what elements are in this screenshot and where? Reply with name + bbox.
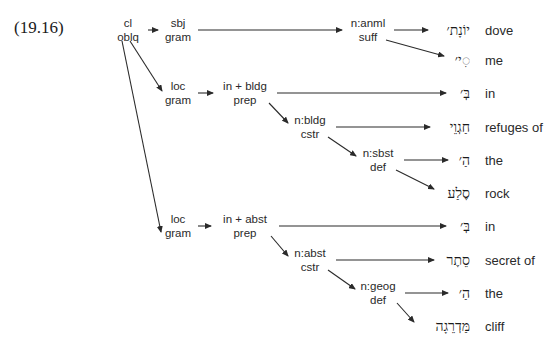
edge-arrow-geog-to-leaf9	[397, 303, 414, 322]
gloss: the	[485, 153, 503, 168]
node-function: suff	[351, 30, 386, 44]
hebrew-word: חַגְוֵי	[450, 119, 470, 136]
gloss: refuges of	[485, 120, 543, 135]
hebrew-word: בְּ׳	[460, 218, 470, 235]
hebrew-word: סֵתֶר	[447, 252, 470, 269]
node-root: cloblq	[117, 16, 139, 44]
node-function: gram	[165, 226, 191, 240]
hebrew-word: ◌ִי׳	[455, 52, 470, 69]
gloss: secret of	[485, 253, 535, 268]
gloss: cliff	[485, 319, 504, 334]
gloss: rock	[485, 186, 510, 201]
edge-arrow-abst-to-geog	[328, 270, 355, 289]
node-category: n:bldg	[294, 113, 325, 127]
node-category: in + bldg	[223, 79, 267, 93]
edge-arrow-sbst-to-leaf5	[396, 170, 434, 189]
edge-arrow-anml-to-leaf1	[386, 40, 444, 56]
gloss: dove	[485, 23, 513, 38]
node-loc2: locgram	[165, 212, 191, 240]
hebrew-word: מַּדְרֵגָה	[435, 318, 470, 335]
node-category: in + abst	[223, 212, 267, 226]
node-category: n:sbst	[363, 146, 394, 160]
node-function: gram	[165, 93, 191, 107]
node-function: def	[360, 293, 395, 307]
node-function: cstr	[294, 127, 325, 141]
node-function: cstr	[294, 260, 325, 274]
node-sbst: n:sbstdef	[363, 146, 394, 174]
node-abst: n:abstcstr	[294, 246, 325, 274]
node-anml: n:anmlsuff	[351, 16, 386, 44]
gloss: me	[485, 53, 503, 68]
edges	[122, 30, 448, 322]
node-function: prep	[223, 226, 267, 240]
gloss: in	[485, 86, 495, 101]
hebrew-word: הַ׳	[459, 152, 470, 169]
edge-arrow-prep2-to-abst	[271, 236, 288, 256]
hebrew-word: יוֹנָת׳	[446, 22, 470, 39]
node-function: gram	[165, 30, 191, 44]
hebrew-word: הַ׳	[459, 285, 470, 302]
example-number: (19.16)	[14, 18, 64, 38]
node-category: loc	[165, 212, 191, 226]
edge-arrow-prep1-to-bldg	[269, 103, 288, 123]
dependency-diagram	[0, 0, 560, 351]
edge-arrow-root-to-loc2	[122, 41, 161, 232]
node-function: oblq	[117, 30, 139, 44]
node-category: loc	[165, 79, 191, 93]
hebrew-word: סֶלַע	[448, 185, 470, 202]
edge-arrow-bldg-to-sbst	[328, 137, 356, 156]
node-geog: n:geogdef	[360, 279, 395, 307]
node-prep2: in + abstprep	[223, 212, 267, 240]
node-bldg: n:bldgcstr	[294, 113, 325, 141]
node-sbj: sbjgram	[165, 16, 191, 44]
node-category: sbj	[165, 16, 191, 30]
node-category: n:abst	[294, 246, 325, 260]
gloss: in	[485, 219, 495, 234]
hebrew-word: בְּ׳	[460, 85, 470, 102]
node-loc1: locgram	[165, 79, 191, 107]
node-function: prep	[223, 93, 267, 107]
node-function: def	[363, 160, 394, 174]
node-category: n:anml	[351, 16, 386, 30]
node-prep1: in + bldgprep	[223, 79, 267, 107]
gloss: the	[485, 286, 503, 301]
node-category: n:geog	[360, 279, 395, 293]
node-category: cl	[117, 16, 139, 30]
edge-arrow-root-to-loc1	[130, 41, 162, 91]
